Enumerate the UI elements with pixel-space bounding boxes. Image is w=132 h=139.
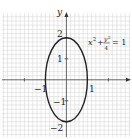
x-tick-neg1: −1 (34, 84, 47, 94)
y-tick-2: 2 (57, 29, 63, 39)
y-tick-neg1: −1 (53, 97, 66, 107)
y-tick-1: 1 (57, 54, 63, 64)
x-axis-arrow-icon (126, 78, 131, 82)
equation-label: x 2 + y 2 4 = 1 (88, 35, 126, 51)
ellipse-diagram: y 2 1 −1 −2 −1 1 x 2 + y 2 4 = 1 (0, 0, 132, 139)
svg-text:2: 2 (93, 36, 96, 42)
svg-text:2: 2 (108, 35, 111, 40)
y-axis-arrow-icon (64, 12, 68, 17)
svg-text:+: + (97, 38, 104, 47)
y-axis-label: y (56, 7, 63, 17)
x-tick-1: 1 (89, 84, 95, 94)
svg-text:= 1: = 1 (112, 38, 126, 47)
svg-text:4: 4 (105, 45, 109, 51)
y-tick-neg2: −2 (50, 123, 63, 133)
